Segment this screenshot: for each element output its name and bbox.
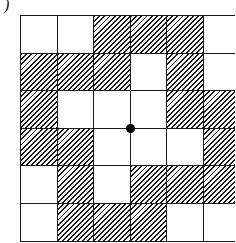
- hatched-cell: [93, 15, 131, 54]
- empty-cell: [203, 53, 236, 92]
- hatched-cell: [166, 53, 204, 92]
- empty-cell: [57, 15, 95, 54]
- hatched-cell: [130, 15, 168, 54]
- empty-cell: [20, 165, 58, 204]
- empty-cell: [166, 203, 204, 242]
- hatched-cell: [20, 53, 58, 92]
- hatched-cell: [93, 53, 131, 92]
- empty-cell: [57, 90, 95, 129]
- hatched-cell: [57, 128, 95, 167]
- empty-cell: [130, 90, 168, 129]
- empty-cell: [93, 128, 131, 167]
- empty-cell: [166, 128, 204, 167]
- hatched-cell: [20, 90, 58, 129]
- empty-cell: [20, 15, 58, 54]
- hatched-cell: [166, 165, 204, 204]
- empty-cell: [203, 15, 236, 54]
- figure-label: ): [4, 0, 9, 14]
- empty-cell: [130, 53, 168, 92]
- empty-cell: [93, 165, 131, 204]
- empty-cell: [130, 128, 168, 167]
- hatched-cell: [57, 53, 95, 92]
- hatched-cell: [203, 165, 236, 204]
- hatched-cell: [130, 165, 168, 204]
- hatched-cell: [93, 203, 131, 242]
- empty-cell: [203, 203, 236, 242]
- empty-cell: [93, 90, 131, 129]
- hatched-cell: [57, 165, 95, 204]
- hatched-cell: [130, 203, 168, 242]
- hatched-cell: [166, 15, 204, 54]
- hatched-cell: [57, 203, 95, 242]
- center-dot: [126, 124, 135, 133]
- hatched-cell: [20, 128, 58, 167]
- empty-cell: [20, 203, 58, 242]
- hatched-cell: [203, 90, 236, 129]
- hatched-cell: [166, 90, 204, 129]
- hatched-cell: [203, 128, 236, 167]
